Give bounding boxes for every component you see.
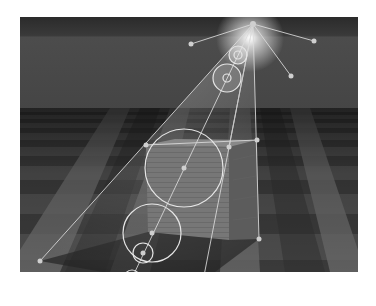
gizmo-handle[interactable] [189,42,194,47]
gizmo-handle[interactable] [255,138,260,143]
wooden-crate [146,139,259,240]
flare-center [141,251,146,256]
gizmo-handle[interactable] [144,143,149,148]
gizmo-handle[interactable] [257,237,262,242]
scene-canvas [20,17,358,272]
render-viewport [20,17,358,272]
gizmo-handle[interactable] [312,39,317,44]
crate-front-face [146,145,229,240]
light-source-handle[interactable] [250,21,256,27]
flare-center [150,231,155,236]
flare-center [182,166,187,171]
gizmo-handle[interactable] [227,145,232,150]
gizmo-handle[interactable] [289,74,294,79]
gizmo-handle[interactable] [38,259,43,264]
